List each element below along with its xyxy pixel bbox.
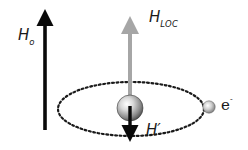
local-field-label: HLOC: [149, 9, 178, 25]
induced-field-label-main: H′: [146, 121, 161, 139]
applied-field-arrow: [37, 9, 54, 130]
local-field-label-sub: LOC: [160, 19, 178, 29]
applied-field-label: Ho: [18, 27, 35, 43]
local-field-arrow: [121, 16, 139, 100]
electron-label: e-: [221, 98, 233, 113]
electron-label-main: e: [221, 96, 230, 114]
local-field-label-main: H: [149, 8, 160, 26]
diagram-canvas: [0, 0, 248, 150]
shielding-diagram: Ho HLOC H′ e-: [0, 0, 248, 150]
applied-field-label-sub: o: [29, 37, 35, 47]
electron-sphere: [203, 101, 215, 113]
induced-field-label: H′: [146, 122, 161, 138]
electron-label-charge: -: [230, 95, 233, 104]
applied-field-label-main: H: [18, 26, 29, 44]
